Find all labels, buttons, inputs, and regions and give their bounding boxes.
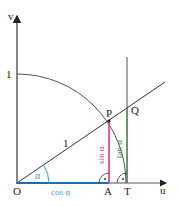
right-angle-marker-a xyxy=(99,173,109,183)
angle-label: α xyxy=(35,170,41,181)
ray-op xyxy=(17,82,165,183)
point-a-label: A xyxy=(104,185,112,197)
point-p xyxy=(107,119,110,122)
right-angle-dot-t xyxy=(122,178,124,180)
sin-label: sin α xyxy=(96,146,106,164)
angle-arc xyxy=(44,165,50,183)
cos-label: cos α xyxy=(51,187,70,197)
tan-label: tan α xyxy=(114,140,124,158)
radius-label: 1 xyxy=(63,137,69,149)
unit-tick-label: 1 xyxy=(6,68,12,80)
point-t-label: T xyxy=(124,185,131,197)
v-axis-label: v xyxy=(8,10,14,22)
point-p-label: P xyxy=(106,107,112,119)
u-axis-label: u xyxy=(160,184,166,196)
right-angle-dot-a xyxy=(104,178,106,180)
point-q-label: Q xyxy=(131,104,139,116)
origin-label: O xyxy=(13,185,21,197)
unit-circle-diagram: v u O 1 P Q A T 1 α cos α sin α tan α xyxy=(0,0,180,207)
